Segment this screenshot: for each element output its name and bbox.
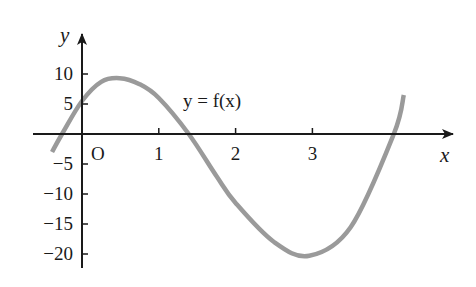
origin-label: O [91, 143, 105, 164]
x-tick-label: 2 [231, 143, 241, 164]
function-graph: 123 105−5−10−15−20 y x O y = f(x) [0, 0, 476, 287]
y-tick-label: −20 [43, 243, 73, 264]
x-tick-label: 3 [308, 143, 318, 164]
x-tick-label: 1 [154, 143, 164, 164]
curve-label: y = f(x) [183, 90, 241, 112]
y-tick-label: −15 [43, 213, 73, 234]
y-tick-label: 5 [64, 93, 74, 114]
y-tick-label: −5 [53, 153, 73, 174]
y-tick-label: −10 [43, 183, 73, 204]
y-tick-label: 10 [54, 63, 73, 84]
x-axis-label: x [439, 143, 450, 167]
y-axis-label: y [58, 23, 70, 47]
